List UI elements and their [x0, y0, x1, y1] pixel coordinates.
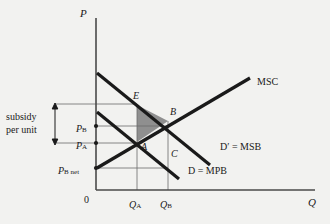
- point-label-e: E: [133, 91, 139, 101]
- diagram-canvas: P Q 0 MSC D′ = MSB D = MPB E B A C PB PA…: [0, 0, 330, 224]
- origin-label: 0: [84, 195, 89, 205]
- subsidy-annotation-line2: per unit: [6, 125, 37, 135]
- msb-label: D′ = MSB: [220, 142, 261, 152]
- price-label-pbnet-sub: B net: [64, 168, 79, 176]
- point-label-b: B: [170, 107, 176, 117]
- subsidy-annotation-line1: subsidy: [6, 112, 37, 122]
- quantity-label-qa-sub: A: [136, 202, 141, 210]
- quantity-label-qb-sub: B: [167, 202, 172, 210]
- quantity-label-qa: QA: [129, 195, 141, 211]
- price-label-pa: PA: [76, 136, 87, 152]
- price-axis-label: P: [80, 8, 87, 19]
- dot-price-pa: [94, 141, 98, 145]
- quantity-axis-label: Q: [308, 197, 316, 208]
- diagram-graphics: [0, 0, 330, 224]
- dot-price-pbnet: [94, 166, 98, 170]
- price-label-pb-sub: B: [82, 126, 87, 134]
- point-label-a: A: [141, 142, 147, 152]
- msc-label: MSC: [257, 77, 278, 87]
- mpb-label: D = MPB: [188, 166, 227, 176]
- subsidy-arrow-head-down: [52, 139, 58, 145]
- price-label-pa-sub: A: [82, 143, 87, 151]
- price-label-pb: PB: [76, 119, 87, 135]
- subsidy-bracket: [52, 103, 58, 145]
- point-label-c: C: [171, 149, 178, 159]
- msb-curve: [97, 73, 210, 165]
- dot-price-pb: [94, 124, 98, 128]
- quantity-label-qb: QB: [160, 195, 172, 211]
- price-label-pbnet: PB net: [58, 161, 79, 177]
